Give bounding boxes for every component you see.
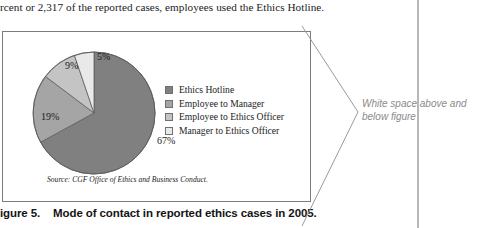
legend-label-employee-to-ethics-officer: Employee to Ethics Officer <box>179 111 284 123</box>
legend-label-ethics-hotline: Ethics Hotline <box>179 84 234 96</box>
annotation-label: White space above and below figure <box>362 98 474 123</box>
legend-swatch-icon-employee-to-ethics-officer <box>165 113 173 121</box>
figure-caption: igure 5.Mode of contact in reported ethi… <box>0 207 317 219</box>
legend-item-ethics-hotline: Ethics Hotline <box>165 84 284 96</box>
chart-legend: Ethics Hotline Employee to Manager Emplo… <box>165 84 284 138</box>
legend-item-employee-to-ethics-officer: Employee to Ethics Officer <box>165 111 284 123</box>
legend-swatch-icon-employee-to-manager <box>165 100 173 108</box>
figure-caption-number: igure 5. <box>0 207 40 219</box>
pie-value-label-employee-to-manager: 19% <box>41 111 59 122</box>
legend-swatch-icon-ethics-hotline <box>165 86 173 94</box>
legend-item-manager-to-ethics-officer: Manager to Ethics Officer <box>165 125 284 137</box>
figure-source-note: Source: CGF Office of Ethics and Busines… <box>47 175 208 184</box>
pie-value-label-manager-to-ethics-officer: 5% <box>97 51 110 62</box>
pie-chart: 67% 19% 9% 5% <box>31 50 157 176</box>
legend-label-manager-to-ethics-officer: Manager to Ethics Officer <box>179 125 279 137</box>
legend-swatch-icon-manager-to-ethics-officer <box>165 127 173 135</box>
pie-value-label-employee-to-ethics-officer: 9% <box>65 60 78 71</box>
figure-caption-title: Mode of contact in reported ethics cases… <box>53 207 317 219</box>
figure-box: 67% 19% 9% 5% Ethics Hotline Employee to… <box>2 31 311 202</box>
intro-paragraph: rcent or 2,317 of the reported cases, em… <box>0 0 330 14</box>
legend-label-employee-to-manager: Employee to Manager <box>179 98 264 110</box>
legend-item-employee-to-manager: Employee to Manager <box>165 98 284 110</box>
